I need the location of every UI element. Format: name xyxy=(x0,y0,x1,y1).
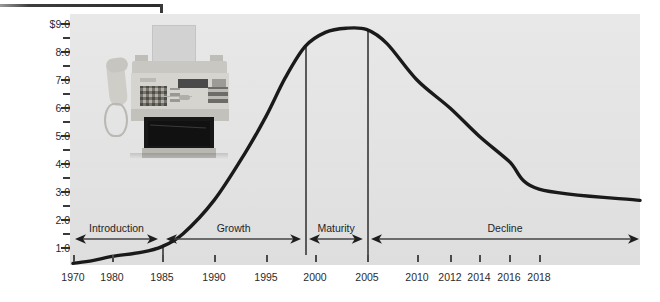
y-tick-minor xyxy=(63,233,70,235)
x-tick-label: 1995 xyxy=(254,271,277,283)
y-tick-major xyxy=(61,79,70,81)
x-tick-label: 1990 xyxy=(202,271,225,283)
x-tick-label: 2018 xyxy=(527,271,550,283)
y-tick-major xyxy=(61,163,70,165)
y-tick-minor xyxy=(63,121,70,123)
x-tick-mark xyxy=(315,255,317,262)
y-tick-minor xyxy=(63,93,70,95)
product-life-cycle-chart: Worldwide sales ($ billions) $9.08.07.06… xyxy=(0,0,660,302)
x-tick-label: 2014 xyxy=(467,271,490,283)
y-tick-minor xyxy=(63,37,70,39)
x-tick-mark xyxy=(162,255,164,262)
plot-area: IntroductionGrowthMaturityDecline xyxy=(70,14,640,265)
y-tick-minor xyxy=(63,149,70,151)
x-axis-ticks xyxy=(70,14,640,265)
x-tick-mark xyxy=(367,255,369,262)
y-tick-major xyxy=(61,135,70,137)
y-tick-major xyxy=(61,51,70,53)
y-tick-major xyxy=(61,191,70,193)
x-tick-mark xyxy=(214,255,216,262)
y-tick-major xyxy=(61,107,70,109)
x-tick-mark xyxy=(539,255,541,262)
top-rule-end-tick xyxy=(160,4,163,13)
x-tick-mark xyxy=(479,255,481,262)
x-tick-label: 2000 xyxy=(303,271,326,283)
y-tick-major xyxy=(61,247,70,249)
x-tick-mark xyxy=(73,255,75,262)
x-tick-label: 1980 xyxy=(100,271,123,283)
x-tick-label: 1970 xyxy=(61,271,84,283)
x-tick-label: 2012 xyxy=(438,271,461,283)
y-tick-minor xyxy=(63,177,70,179)
x-tick-mark xyxy=(450,255,452,262)
top-rule-fragment xyxy=(0,4,163,7)
x-tick-label: 1985 xyxy=(150,271,173,283)
x-tick-mark xyxy=(509,255,511,262)
x-tick-mark xyxy=(417,255,419,262)
y-tick-major xyxy=(61,219,70,221)
y-tick-minor xyxy=(63,65,70,67)
x-tick-label: 2005 xyxy=(355,271,378,283)
x-tick-mark xyxy=(112,255,114,262)
x-tick-label: 2016 xyxy=(497,271,520,283)
x-tick-label: 2010 xyxy=(405,271,428,283)
y-tick-major xyxy=(61,23,70,25)
y-axis: $9.08.07.06.05.04.03.02.01.0 xyxy=(0,14,70,265)
x-tick-mark xyxy=(266,255,268,262)
y-tick-minor xyxy=(63,205,70,207)
